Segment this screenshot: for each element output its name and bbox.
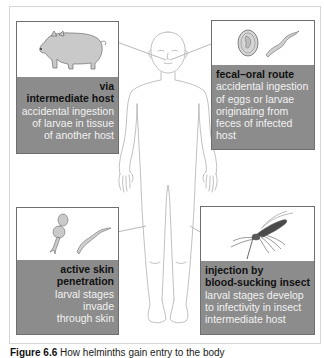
route-title: via (21, 80, 114, 92)
route-title: penetration (21, 275, 114, 287)
route-description: of eggs or larvae (216, 93, 310, 105)
route-description: feces of infected (216, 117, 310, 129)
route-description: intermediate host (205, 313, 310, 325)
connector-fecal-oral (170, 44, 211, 60)
route-description: invade (21, 300, 114, 312)
connector-skin-penetration (117, 226, 146, 232)
route-illustration (17, 208, 118, 260)
cercaria-icon (50, 214, 68, 254)
eye-left (158, 50, 164, 51)
route-box-intermediate-host: via intermediate host accidental ingesti… (16, 21, 119, 154)
nose (167, 53, 169, 59)
hand-left (119, 172, 133, 192)
route-box-fecal-oral: fecal–oral route accidental ingestion of… (211, 20, 315, 150)
route-title: fecal–oral route (216, 68, 310, 80)
knee-left (150, 262, 160, 264)
route-title: active skin (21, 263, 114, 275)
route-label: active skin penetration larval stages in… (17, 260, 118, 334)
route-box-skin-penetration: active skin penetration larval stages in… (16, 207, 119, 335)
leg-inner (162, 185, 174, 300)
route-illustration (212, 21, 314, 65)
route-description: originating from (216, 105, 310, 117)
mosquito-icon (201, 207, 314, 261)
route-description: larval stages develop (205, 289, 310, 301)
hand-right (203, 172, 217, 192)
route-description: accidental ingestion (216, 80, 310, 92)
route-title: blood-sucking insect (205, 276, 310, 288)
route-label: via intermediate host accidental ingesti… (17, 77, 118, 153)
route-label: fecal–oral route accidental ingestion of… (212, 65, 314, 149)
route-illustration (201, 207, 314, 261)
head (151, 32, 185, 73)
leg-right-outer (170, 104, 199, 323)
route-box-insect-injection: injection by blood-sucking insect larval… (200, 206, 315, 335)
route-description: of another host (21, 129, 114, 141)
route-description: of larvae in tissue (21, 117, 114, 129)
route-title: intermediate host (21, 92, 114, 104)
route-description: host (216, 129, 310, 141)
knee-right (176, 262, 186, 264)
route-title: injection by (205, 264, 310, 276)
route-description: accidental ingestion (21, 105, 114, 117)
route-description: larval stages (21, 288, 114, 300)
cercaria-and-larva-icon (17, 208, 118, 260)
arm-left-inner (130, 104, 137, 172)
figure-caption-text: How helminths gain entry to the body (60, 347, 225, 358)
egg-and-larva-icon (212, 21, 314, 65)
pig-icon (17, 22, 118, 77)
figure-caption: Figure 6.6 How helminths gain entry to t… (10, 347, 225, 358)
eye-right (172, 50, 178, 51)
larva-icon (77, 228, 111, 254)
route-illustration (17, 22, 118, 77)
egg-icon (238, 30, 258, 56)
route-description: to infectivity in insect (205, 301, 310, 313)
arm-right-inner (199, 104, 206, 172)
figure-caption-label: Figure 6.6 (10, 347, 57, 358)
connector-insect (190, 226, 200, 232)
route-label: injection by blood-sucking insect larval… (201, 261, 314, 334)
mouth (164, 63, 172, 64)
leg-left-outer (137, 104, 166, 323)
larva-icon (266, 31, 299, 57)
route-description: through skin (21, 312, 114, 324)
